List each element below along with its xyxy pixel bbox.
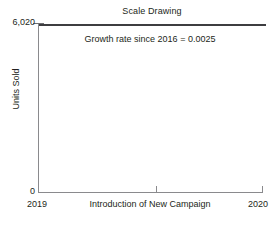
y-axis-title: Units Sold [11,49,21,129]
y-axis-label-max: 6,020 [12,17,35,27]
chart-title: Scale Drawing [38,6,266,16]
x-axis-line [38,192,263,193]
x-axis-tick-2020 [262,186,263,193]
units-sold-series-line [39,24,266,26]
y-axis-line [38,23,39,193]
x-axis-title: Introduction of New Campaign [38,199,262,209]
x-axis-tick-campaign [156,186,157,193]
y-axis-label-zero: 0 [30,186,35,196]
x-axis-tick-2019 [38,186,39,193]
scale-drawing-chart: Scale Drawing Growth rate since 2016 = 0… [0,0,274,226]
plot-area [38,23,262,192]
